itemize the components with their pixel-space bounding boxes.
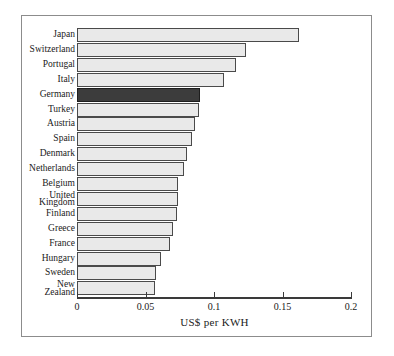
bar-category-label: Sweden (0, 270, 75, 278)
bar (77, 117, 195, 131)
bar-row: Hungary (22, 252, 373, 266)
bar-category-label: Finland (0, 210, 75, 218)
chart-figure: US$ per KWH JapanSwitzerlandPortugalItal… (21, 15, 372, 337)
bar (77, 43, 246, 57)
bar-category-label: Belgium (0, 180, 75, 188)
bar (77, 222, 173, 236)
bar-row: United Kingdom (22, 192, 373, 206)
x-axis-line (77, 297, 352, 299)
bar (77, 237, 170, 251)
bar (77, 207, 177, 221)
x-axis-tick (214, 292, 215, 297)
x-axis-title: US$ per KWH (77, 316, 352, 328)
bar-row: Switzerland (22, 43, 373, 57)
x-axis-tick (351, 292, 352, 297)
bar-row: Denmark (22, 147, 373, 161)
bar-category-label: Turkey (0, 106, 75, 114)
x-axis-tick (77, 292, 78, 297)
bar-category-label: New Zealand (0, 281, 75, 296)
bar-category-label: Japan (0, 31, 75, 39)
bar (77, 281, 155, 295)
bar (77, 132, 192, 146)
bar-row: Netherlands (22, 162, 373, 176)
bar (77, 103, 199, 117)
bar (77, 73, 224, 87)
bar (77, 192, 178, 206)
bar-category-label: Spain (0, 136, 75, 144)
bar-category-label: Portugal (0, 61, 75, 69)
x-axis-tick-label: 0 (57, 301, 97, 312)
bar-row: Greece (22, 222, 373, 236)
bar (77, 147, 187, 161)
bar-category-label: Hungary (0, 255, 75, 263)
x-axis-tick-label: 0.2 (331, 301, 371, 312)
bar (77, 252, 161, 266)
bar (77, 58, 236, 72)
x-axis-tick-label: 0.1 (194, 301, 234, 312)
x-axis-tick-label: 0.15 (263, 301, 303, 312)
x-axis-tick-label: 0.05 (126, 301, 166, 312)
bar-row: Portugal (22, 58, 373, 72)
bar-category-label: Italy (0, 76, 75, 84)
bar-row: Italy (22, 73, 373, 87)
bar-row: Finland (22, 207, 373, 221)
bar-row: Spain (22, 132, 373, 146)
bar-category-label: Germany (0, 91, 75, 99)
bar (77, 177, 178, 191)
bar-category-label: France (0, 240, 75, 248)
bar-category-label: United Kingdom (0, 191, 75, 206)
bar-row: Japan (22, 28, 373, 42)
bar-category-label: Netherlands (0, 165, 75, 173)
bar (77, 266, 156, 280)
bar (77, 28, 299, 42)
bar-category-label: Austria (0, 121, 75, 129)
bar-category-label: Denmark (0, 150, 75, 158)
bar-category-label: Switzerland (0, 46, 75, 54)
bar-row: Turkey (22, 103, 373, 117)
bar-highlighted (77, 88, 200, 102)
x-axis-tick (283, 292, 284, 297)
bar-row: Austria (22, 117, 373, 131)
bar-row: Germany (22, 88, 373, 102)
x-axis-tick (146, 292, 147, 297)
bar (77, 162, 184, 176)
bar-row: New Zealand (22, 281, 373, 295)
bar-row: France (22, 237, 373, 251)
bar-chart-plot-area: US$ per KWH JapanSwitzerlandPortugalItal… (22, 16, 373, 338)
bar-category-label: Greece (0, 225, 75, 233)
